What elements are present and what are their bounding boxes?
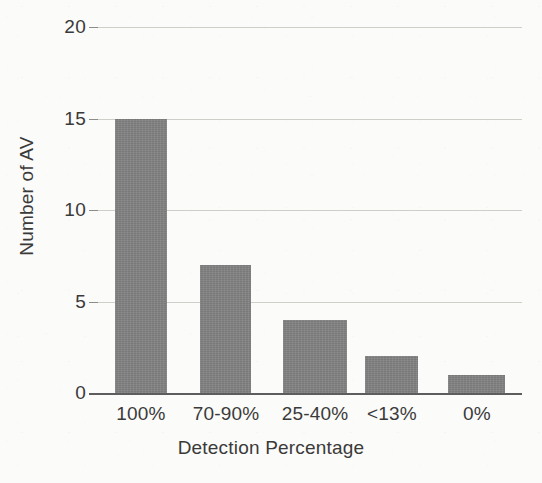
x-tick-label-70-90-percent: 70-90% (193, 403, 260, 425)
y-tick-label-20: 20 (64, 16, 86, 38)
y-tick-label-10: 10 (64, 199, 86, 221)
bar-70-90-percent[interactable] (200, 265, 251, 393)
plot-area: 20 15 10 5 0 100% 70-90% (98, 27, 522, 393)
x-axis-title: Detection Percentage (0, 437, 542, 459)
bar-25-40-percent[interactable] (283, 320, 347, 393)
y-tick-label-5: 5 (75, 291, 86, 313)
x-tick-label-under-13-percent: <13% (367, 403, 417, 425)
tick-mark-10 (89, 210, 98, 211)
tick-mark-0 (89, 393, 98, 395)
y-tick-label-0: 0 (75, 382, 86, 404)
bar-chart: Number of AV 20 15 10 5 0 (0, 0, 542, 483)
y-tick-label-15: 15 (64, 108, 86, 130)
tick-mark-20 (89, 27, 98, 28)
y-axis-title: Number of AV (16, 96, 38, 296)
bar-100-percent[interactable] (115, 119, 167, 394)
tick-mark-15 (89, 119, 98, 120)
x-tick-label-25-40-percent: 25-40% (282, 403, 349, 425)
x-tick-label-0-percent: 0% (463, 403, 491, 425)
tick-mark-5 (89, 302, 98, 303)
gridline-20 (98, 27, 522, 28)
x-axis-baseline (98, 393, 522, 395)
x-tick-label-100-percent: 100% (116, 403, 165, 425)
bar-under-13-percent[interactable] (365, 356, 418, 393)
bar-0-percent[interactable] (448, 375, 505, 393)
